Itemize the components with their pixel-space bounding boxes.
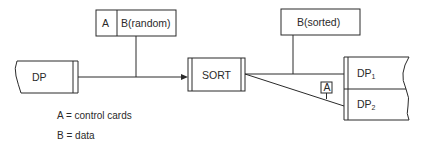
input-file-dp [15, 61, 78, 93]
control-tag-label: A [324, 81, 331, 93]
sort-label: SORT [202, 69, 232, 81]
output-file-2-label: DP2 [357, 98, 376, 111]
input-file-label: DP [32, 71, 47, 83]
record-part-a-label: A [102, 17, 109, 29]
output-record-label: B(sorted) [297, 16, 340, 28]
sort-flow-diagram: DP A B(random) SORT B(sorted) A DP1 DP2 [0, 0, 424, 150]
arrow-head-icon [181, 74, 188, 80]
output-files-block [344, 57, 409, 120]
legend-item-a: A = control cards [57, 110, 132, 121]
output-file-1-label: DP1 [357, 67, 376, 80]
record-part-b-label: B(random) [121, 17, 171, 29]
legend-item-b: B = data [57, 130, 95, 141]
